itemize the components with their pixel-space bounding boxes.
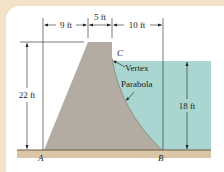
arrow-icon [107, 24, 111, 27]
ground-strip [17, 150, 211, 158]
arrow-icon [44, 24, 48, 27]
point-a-label: A [37, 153, 44, 163]
dim-5ft-label: 5 ft [94, 12, 107, 22]
arrow-icon [26, 145, 29, 149]
dim-9ft-label: 9 ft [60, 20, 73, 30]
dim-18ft-label: 18 ft [179, 101, 196, 111]
point-b-label: B [158, 153, 164, 163]
arrow-icon [89, 24, 93, 27]
dim-22ft-label: 22 ft [19, 90, 36, 100]
arrow-icon [26, 43, 29, 47]
arrow-icon [158, 24, 162, 27]
vertex-label: Vertex [125, 63, 149, 73]
dim-10ft-label: 10 ft [129, 20, 146, 30]
arrow-icon [83, 24, 87, 27]
dam-diagram: 9 ft 5 ft 10 ft 22 ft 18 ft C A B Vertex… [0, 0, 224, 172]
arrow-icon [113, 24, 117, 27]
parabola-label: Parabola [121, 79, 153, 89]
point-c-label: C [117, 48, 124, 58]
